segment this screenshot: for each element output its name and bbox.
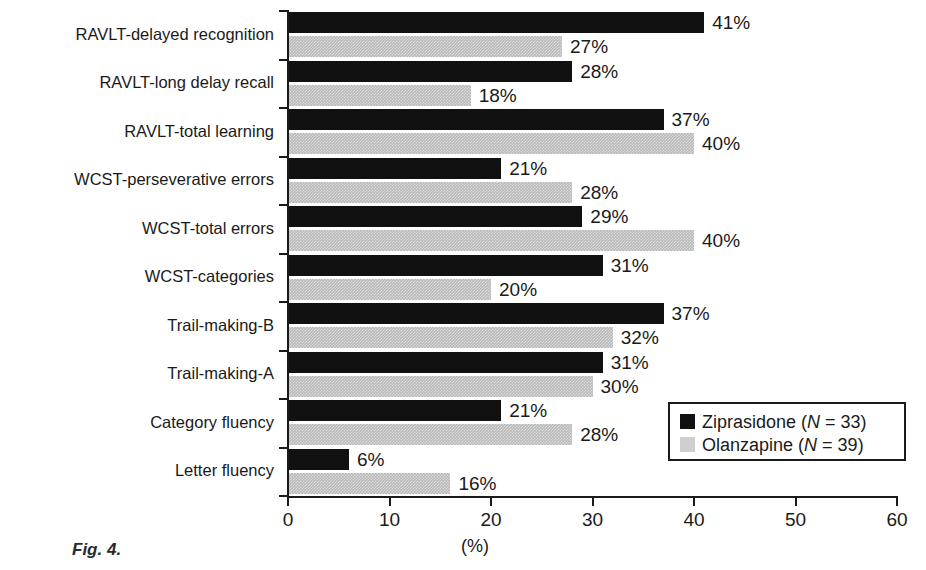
- category-label-7: Trail-making-A: [0, 363, 274, 383]
- bar-value-0-0: 41%: [712, 12, 750, 33]
- chart-legend: Ziprasidone (N = 33) Olanzapine (N = 39): [668, 402, 906, 461]
- bar-3-1: [288, 182, 572, 203]
- bar-7-1: [288, 376, 593, 397]
- bar-value-2-1: 40%: [702, 133, 740, 154]
- bar-6-1: [288, 327, 613, 348]
- legend-label-olanzapine: Olanzapine (N = 39): [702, 434, 864, 456]
- bar-2-1: [288, 133, 694, 154]
- bar-0-0: [288, 12, 704, 33]
- bar-value-8-1: 28%: [580, 424, 618, 445]
- x-tick-label-40: 40: [683, 508, 704, 532]
- category-label-1: RAVLT-long delay recall: [0, 72, 274, 92]
- y-tick-9: [279, 447, 288, 449]
- bar-value-9-1: 16%: [458, 473, 496, 494]
- y-tick-7: [279, 350, 288, 352]
- bar-8-0: [288, 400, 501, 421]
- legend-n-ziprasidone: 33: [841, 412, 861, 432]
- bar-value-5-1: 20%: [499, 279, 537, 300]
- bar-value-7-0: 31%: [611, 352, 649, 373]
- x-tick-10: [389, 497, 391, 506]
- x-tick-label-10: 10: [379, 508, 400, 532]
- figure-caption: Fig. 4.: [72, 540, 121, 560]
- category-label-4: WCST-total errors: [0, 218, 274, 238]
- x-tick-label-0: 0: [283, 508, 294, 532]
- bar-0-1: [288, 36, 562, 57]
- x-tick-label-20: 20: [480, 508, 501, 532]
- y-tick-2: [279, 107, 288, 109]
- bar-value-6-1: 32%: [621, 327, 659, 348]
- bar-value-5-0: 31%: [611, 255, 649, 276]
- x-tick-40: [693, 497, 695, 506]
- bar-5-1: [288, 279, 491, 300]
- bar-2-0: [288, 109, 664, 130]
- x-tick-60: [896, 497, 898, 506]
- y-tick-0: [279, 10, 288, 12]
- bar-value-7-1: 30%: [601, 376, 639, 397]
- x-tick-label-60: 60: [886, 508, 907, 532]
- x-axis-title-text: (%): [461, 536, 489, 556]
- y-tick-5: [279, 253, 288, 255]
- legend-swatch-ziprasidone: [680, 414, 695, 429]
- x-tick-label-50: 50: [785, 508, 806, 532]
- bar-1-1: [288, 85, 471, 106]
- legend-label-ziprasidone: Ziprasidone (N = 33): [702, 411, 867, 433]
- bar-7-0: [288, 352, 603, 373]
- y-tick-4: [279, 204, 288, 206]
- bar-4-0: [288, 206, 582, 227]
- y-tick-3: [279, 156, 288, 158]
- y-tick-6: [279, 301, 288, 303]
- category-label-5: WCST-categories: [0, 266, 274, 286]
- bar-9-0: [288, 449, 349, 470]
- legend-item-ziprasidone[interactable]: Ziprasidone (N = 33): [680, 410, 904, 433]
- x-tick-20: [490, 497, 492, 506]
- bar-value-6-0: 37%: [672, 303, 710, 324]
- bar-value-9-0: 6%: [357, 449, 384, 470]
- bar-8-1: [288, 424, 572, 445]
- category-label-8: Category fluency: [0, 412, 274, 432]
- bar-6-0: [288, 303, 664, 324]
- bar-value-4-0: 29%: [590, 206, 628, 227]
- bar-5-0: [288, 255, 603, 276]
- category-label-0: RAVLT-delayed recognition: [0, 24, 274, 44]
- bar-4-1: [288, 230, 694, 251]
- bar-value-4-1: 40%: [702, 230, 740, 251]
- x-axis-title: (%): [0, 536, 926, 557]
- category-label-9: Letter fluency: [0, 460, 274, 480]
- legend-n-olanzapine: 39: [838, 435, 858, 455]
- legend-item-olanzapine[interactable]: Olanzapine (N = 39): [680, 433, 904, 456]
- legend-swatch-olanzapine: [680, 437, 695, 452]
- bar-9-1: [288, 473, 450, 494]
- bar-value-3-0: 21%: [509, 158, 547, 179]
- category-label-3: WCST-perseverative errors: [0, 169, 274, 189]
- category-label-2: RAVLT-total learning: [0, 121, 274, 141]
- y-tick-8: [279, 398, 288, 400]
- bar-1-0: [288, 61, 572, 82]
- x-tick-30: [592, 497, 594, 506]
- y-tick-1: [279, 59, 288, 61]
- bar-3-0: [288, 158, 501, 179]
- bar-value-8-0: 21%: [509, 400, 547, 421]
- bar-value-1-1: 18%: [479, 85, 517, 106]
- x-tick-50: [795, 497, 797, 506]
- bar-value-0-1: 27%: [570, 36, 608, 57]
- x-tick-0: [287, 497, 289, 506]
- category-label-6: Trail-making-B: [0, 315, 274, 335]
- figure-container: 41%27%28%18%37%40%21%28%29%40%31%20%37%3…: [0, 0, 926, 570]
- x-tick-label-30: 30: [582, 508, 603, 532]
- bar-value-1-0: 28%: [580, 61, 618, 82]
- bar-value-3-1: 28%: [580, 182, 618, 203]
- bar-value-2-0: 37%: [672, 109, 710, 130]
